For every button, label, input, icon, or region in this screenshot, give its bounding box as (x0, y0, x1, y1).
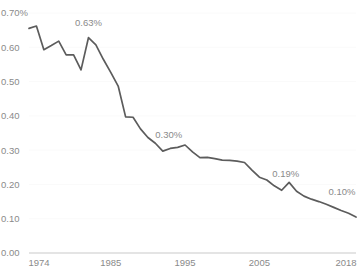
y-axis-tick-label: 0.60 (1, 42, 20, 53)
x-axis-tick-label: 2005 (249, 257, 270, 268)
data-annotations-group: 0.63%0.30%0.19%0.10% (75, 17, 356, 197)
y-axis-tick-label: 0.70% (1, 7, 28, 18)
x-axis-tick-label: 1985 (100, 257, 121, 268)
data-point-annotation: 0.19% (272, 168, 299, 179)
x-axis-ticks-group: 19741985199520052018 (28, 257, 356, 268)
chart-plot-area: 0.70%0.600.500.400.300.200.100.00 197419… (0, 0, 363, 278)
y-axis-tick-label: 0.40 (1, 110, 20, 121)
y-axis-tick-label: 0.10 (1, 213, 20, 224)
data-point-annotation: 0.10% (329, 186, 356, 197)
y-axis-tick-label: 0.50 (1, 76, 20, 87)
x-axis-tick-label: 1974 (28, 257, 49, 268)
y-axis-tick-label: 0.20 (1, 179, 20, 190)
data-series-line (29, 26, 356, 217)
data-point-annotation: 0.30% (155, 129, 182, 140)
y-axis-ticks-group: 0.70%0.600.500.400.300.200.100.00 (1, 7, 28, 258)
y-axis-tick-label: 0.00 (1, 247, 20, 258)
x-axis-tick-label: 2018 (335, 257, 356, 268)
y-axis-tick-label: 0.30 (1, 145, 20, 156)
data-point-annotation: 0.63% (75, 17, 102, 28)
line-chart: 0.70%0.600.500.400.300.200.100.00 197419… (0, 0, 363, 278)
gridlines-group (29, 13, 356, 219)
x-axis-tick-label: 1995 (174, 257, 195, 268)
